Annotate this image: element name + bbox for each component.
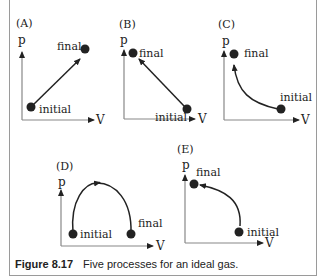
final-point: [230, 50, 239, 59]
p-axis-label: p: [18, 33, 26, 47]
caption-text: Five processes for an ideal gas.: [83, 258, 238, 270]
initial-point: [277, 105, 286, 114]
panel-d: (D) p V initial final: [56, 160, 165, 253]
panel-d-label: (D): [56, 160, 73, 173]
processes-diagram: (A) p V initial final (B) p V initial fi…: [0, 0, 323, 279]
panel-e-label: (E): [177, 143, 194, 156]
p-axis-label: p: [58, 175, 66, 189]
final-label: final: [57, 40, 82, 53]
p-axis-label: p: [182, 158, 190, 172]
final-point: [129, 49, 138, 58]
final-label: final: [139, 47, 164, 60]
panel-c: (C) p V initial final: [218, 18, 313, 127]
initial-point: [235, 228, 244, 237]
p-axis-label: p: [120, 33, 128, 47]
p-axis-label: p: [222, 34, 230, 48]
panel-b-label: (B): [119, 18, 136, 31]
initial-label: initial: [80, 228, 113, 241]
figure-caption: Figure 8.17Five processes for an ideal g…: [15, 258, 238, 270]
v-axis-label: V: [300, 113, 310, 127]
initial-label: initial: [280, 91, 313, 104]
panel-c-label: (C): [218, 18, 235, 31]
v-axis-label: V: [95, 113, 105, 127]
v-axis-label: V: [155, 239, 165, 253]
initial-label: initial: [155, 111, 188, 124]
initial-label: initial: [247, 226, 280, 239]
initial-label: initial: [39, 103, 72, 116]
final-label: final: [244, 47, 269, 60]
final-point: [81, 45, 90, 54]
final-point: [190, 180, 199, 189]
v-axis-label: V: [197, 112, 207, 126]
final-point: [127, 230, 136, 239]
panel-b: (B) p V initial final: [119, 18, 207, 126]
panel-a-label: (A): [16, 17, 33, 30]
final-label: final: [196, 166, 221, 179]
panel-a: (A) p V initial final: [16, 17, 105, 127]
caption-number: Figure 8.17: [15, 258, 73, 270]
panel-e: (E) p V initial final: [177, 143, 280, 250]
initial-point: [27, 103, 36, 112]
final-label: final: [138, 217, 163, 230]
initial-point: [69, 230, 78, 239]
